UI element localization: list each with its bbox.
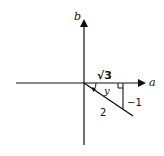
horizontal-axis-label: a bbox=[149, 76, 156, 89]
adjacent-side-label: √3 bbox=[97, 69, 112, 82]
diagram-canvas: b a √3 y −1 2 bbox=[0, 0, 164, 156]
vertical-axis-label: b bbox=[74, 10, 81, 23]
vertical-axis-arrowhead-icon bbox=[80, 19, 88, 27]
horizontal-axis-arrowhead-icon bbox=[138, 79, 146, 87]
right-angle-marker-icon bbox=[118, 83, 123, 88]
hypotenuse-label: 2 bbox=[100, 107, 106, 118]
opposite-side-label: −1 bbox=[127, 97, 142, 108]
angle-label: y bbox=[103, 85, 110, 96]
